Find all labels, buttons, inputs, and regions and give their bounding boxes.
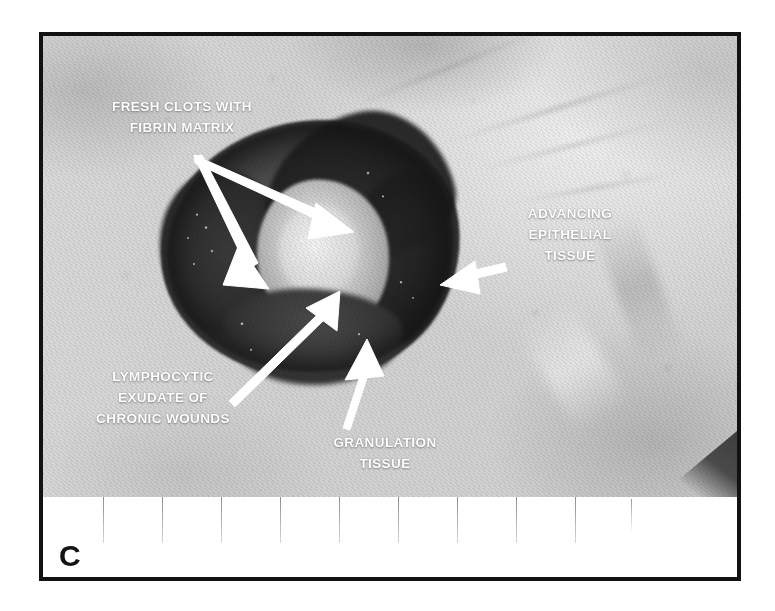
panel-letter-label: C	[59, 541, 81, 571]
ruler-streak-mark	[631, 499, 632, 533]
ruler-tick	[575, 497, 576, 543]
figure-root: FRESH CLOTS WITH FIBRIN MATRIX ADVANCING…	[0, 0, 775, 611]
ruler-tick	[221, 497, 222, 543]
ruler-tick	[339, 497, 340, 543]
figure-frame: FRESH CLOTS WITH FIBRIN MATRIX ADVANCING…	[39, 32, 741, 581]
ruler-tick	[280, 497, 281, 543]
ruler-tick	[162, 497, 163, 543]
ruler-tick	[457, 497, 458, 543]
clinical-photograph: FRESH CLOTS WITH FIBRIN MATRIX ADVANCING…	[43, 36, 737, 497]
photographic-grain	[43, 36, 737, 497]
ruler-tick	[103, 497, 104, 543]
scale-ruler: C	[43, 497, 737, 577]
ruler-tick	[398, 497, 399, 543]
ruler-tick	[516, 497, 517, 543]
